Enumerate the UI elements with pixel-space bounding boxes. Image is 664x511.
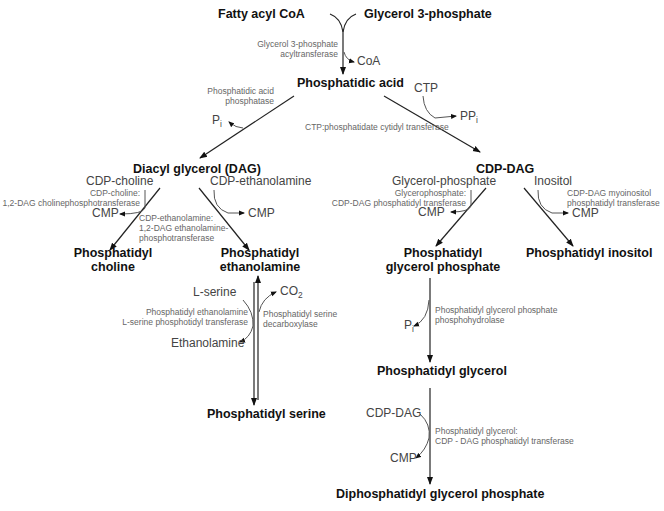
pi-subscript: i <box>412 324 414 334</box>
node-phosphatidic-acid: Phosphatidic acid <box>297 76 404 90</box>
phospholipid-biosynthesis-diagram: Fatty acyl CoA Glycerol 3-phosphate Phos… <box>0 0 664 511</box>
enzyme-pa-phosphatase: Phosphatidic acid phosphatase <box>190 87 274 107</box>
byproduct-cmp-dpgp: CMP <box>390 452 417 466</box>
enzyme-line: phosphatase <box>190 97 274 107</box>
byproduct-pi-pg: Pi <box>404 319 414 335</box>
node-pe-line2: ethanolamine <box>210 260 310 274</box>
node-phosphatidyl-glycerol: Phosphatidyl glycerol <box>377 364 507 378</box>
enzyme-line: phosphotransferase <box>139 234 228 244</box>
node-pe-line1: Phosphatidyl <box>210 246 310 260</box>
enzyme-line: decarboxylase <box>263 320 337 330</box>
substrate-ctp: CTP <box>414 82 438 96</box>
substrate-glycerol-phosphate: Glycerol-phosphate <box>392 175 496 189</box>
enzyme-pgp-phosphohydrolase: Phosphatidyl glycerol phosphate phosphoh… <box>435 306 557 326</box>
enzyme-glycerophosphate-transferase: Glycerophosphate: CDP-DAG phosphatidyl t… <box>330 189 466 209</box>
node-pgp-line2: glycerol phosphate <box>378 260 508 274</box>
byproduct-pi-dag: Pi <box>212 114 222 130</box>
node-pgp-line1: Phosphatidyl <box>378 246 508 260</box>
enzyme-line: L-serine phosphotidyl transferase <box>100 318 248 328</box>
ppi-subscript: i <box>476 115 478 125</box>
byproduct-co2: CO2 <box>280 285 303 301</box>
enzyme-line: CDP-DAG phosphatidyl transferase <box>330 199 466 209</box>
co2-label: CO <box>280 284 298 298</box>
co2-subscript: 2 <box>298 290 303 300</box>
node-phosphatidyl-choline: Phosphatidyl choline <box>68 246 158 275</box>
enzyme-pg-cdp-dag-transferase: Phosphatidyl glycerol: CDP - DAG phospha… <box>435 427 574 447</box>
ppi-label: PP <box>460 109 476 123</box>
enzyme-ps-decarboxylase: Phosphatidyl serine decarboxylase <box>263 310 337 330</box>
node-phosphatidyl-inositol: Phosphatidyl inositol <box>526 246 652 260</box>
substrate-inositol: Inositol <box>534 175 572 189</box>
byproduct-cmp-ethanolamine: CMP <box>248 207 275 221</box>
enzyme-ethanolamine-phosphotransferase: CDP-ethanolamine: 1,2-DAG ethanolamine- … <box>139 214 228 243</box>
byproduct-coa: CoA <box>357 55 380 69</box>
node-glycerol-3-phosphate: Glycerol 3-phosphate <box>364 7 492 21</box>
node-pc-line1: Phosphatidyl <box>68 246 158 260</box>
pi-label: P <box>212 113 220 127</box>
substrate-cdp-dag: CDP-DAG <box>366 407 421 421</box>
substrate-cdp-ethanolamine: CDP-ethanolamine <box>210 175 311 189</box>
enzyme-ps-synthase: Phosphatidyl ethanolamine L-serine phosp… <box>100 308 248 328</box>
node-phosphatidyl-ethanolamine: Phosphatidyl ethanolamine <box>210 246 310 275</box>
byproduct-ethanolamine: Ethanolamine <box>171 337 244 351</box>
enzyme-g3p-acyltransferase: Glycerol 3-phosphate acyltransferase <box>250 40 338 60</box>
pi-subscript: i <box>220 119 222 129</box>
enzyme-line: 1,2-DAG cholinephosphotransferase <box>2 199 140 209</box>
byproduct-cmp-inositol: CMP <box>572 207 599 221</box>
enzyme-line: phosphatidyl transferase <box>567 199 660 209</box>
substrate-cdp-choline: CDP-choline <box>86 175 153 189</box>
enzyme-choline-phosphotransferase: CDP-choline: 1,2-DAG cholinephosphotrans… <box>2 189 140 209</box>
enzyme-line: phosphohydrolase <box>435 316 557 326</box>
node-fatty-acyl-coa: Fatty acyl CoA <box>218 7 305 21</box>
enzyme-ctp-cytidyl-transferase: CTP:phosphatidate cytidyl transferase <box>305 123 449 133</box>
node-phosphatidyl-serine: Phosphatidyl serine <box>207 407 326 421</box>
enzyme-line: CDP - DAG phosphatidyl transferase <box>435 437 574 447</box>
node-diphosphatidyl-glycerol-phosphate: Diphosphatidyl glycerol phosphate <box>336 487 544 501</box>
pi-label: P <box>404 318 412 332</box>
node-pc-line2: choline <box>68 260 158 274</box>
byproduct-ppi: PPi <box>460 110 478 126</box>
node-phosphatidyl-glycerol-phosphate: Phosphatidyl glycerol phosphate <box>378 246 508 275</box>
enzyme-line: acyltransferase <box>250 50 338 60</box>
enzyme-myoinositol-transferase: CDP-DAG myoinositol phosphatidyl transfe… <box>567 189 660 209</box>
byproduct-cmp-choline: CMP <box>92 207 119 221</box>
substrate-l-serine: L-serine <box>193 286 236 300</box>
